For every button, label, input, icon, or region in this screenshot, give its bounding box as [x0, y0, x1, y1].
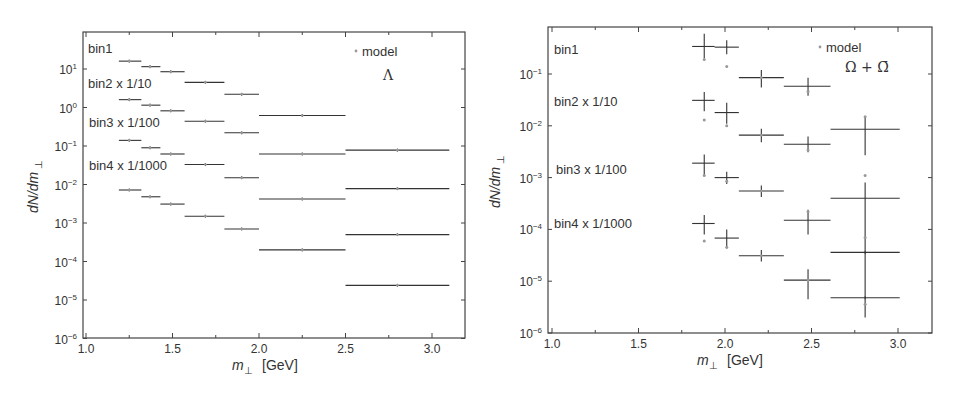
data-point: [259, 152, 346, 155]
data-point: [739, 186, 784, 197]
data-point: [141, 146, 160, 149]
x-tick-label: 3.0: [890, 337, 907, 351]
data-point: [141, 65, 160, 68]
model-marker-icon: [725, 180, 728, 183]
data-point: [346, 284, 450, 287]
x-axis-title-sub: ⊥: [709, 360, 718, 371]
y-axis-title-main: dN/dm: [25, 171, 41, 213]
data-point: [141, 104, 160, 107]
y-axis-title-main: dN/dm: [487, 166, 503, 208]
data-point: [739, 250, 784, 261]
data-point: [185, 120, 225, 123]
y-tick-label: 10−6: [55, 332, 78, 347]
species-label: Λ: [382, 67, 394, 83]
model-marker-icon: [169, 203, 172, 206]
data-point: [224, 227, 259, 230]
data-point: [784, 210, 831, 235]
y-tick-label: 100: [59, 101, 77, 116]
data-point: [160, 152, 184, 155]
y-axis-title: dN/dm ⊥: [487, 155, 506, 208]
model-marker-icon: [396, 284, 399, 287]
data-point: [224, 93, 259, 96]
data-point: [119, 98, 141, 101]
x-tick-label: 2.0: [717, 337, 734, 351]
y-tick-label: 10−3: [520, 171, 543, 186]
legend-model-marker-icon: [355, 50, 358, 53]
data-point: [784, 137, 831, 153]
y-tick-label: 10−6: [520, 326, 543, 341]
x-axis-title: m ⊥ [GeV]: [232, 357, 298, 376]
data-point: [259, 248, 346, 251]
data-point: [739, 129, 784, 143]
y-tick-label: 10−3: [55, 216, 78, 231]
model-marker-icon: [301, 114, 304, 117]
model-marker-icon: [864, 236, 867, 239]
model-marker-icon: [301, 198, 304, 201]
model-marker-icon: [240, 228, 243, 231]
data-point: [692, 154, 714, 177]
bin3-label: bin3 x 1/100: [556, 162, 627, 177]
x-axis-title-main: m: [232, 357, 244, 373]
y-tick-label: 101: [59, 62, 77, 77]
data-point: [259, 114, 346, 117]
legend-model-label: model: [362, 44, 398, 59]
model-marker-icon: [760, 134, 763, 137]
model-marker-icon: [725, 246, 728, 249]
y-tick-label: 10−5: [520, 274, 543, 289]
legend-model-label: model: [826, 40, 862, 55]
model-marker-icon: [204, 215, 207, 218]
model-marker-icon: [240, 93, 243, 96]
data-point: [224, 176, 259, 179]
x-tick-label: 1.0: [78, 342, 95, 356]
data-point: [784, 269, 831, 299]
omega-chart-panel: 10−110−210−310−410−510−6 1.01.52.02.53.0…: [480, 0, 956, 397]
data-point: [692, 34, 714, 61]
model-marker-icon: [725, 65, 728, 68]
data-point: [119, 139, 141, 142]
lambda-chart: 10110010−110−210−310−410−510−6 1.01.52.0…: [0, 0, 480, 397]
model-marker-icon: [864, 303, 867, 306]
model-marker-icon: [240, 176, 243, 179]
model-marker-icon: [703, 239, 706, 242]
data-points: [119, 60, 449, 287]
model-marker-icon: [204, 163, 207, 166]
data-point: [715, 40, 739, 68]
data-point: [119, 188, 141, 191]
data-point: [160, 70, 184, 73]
data-points: [692, 34, 900, 318]
model-marker-icon: [807, 279, 810, 282]
x-axis-title-sub: ⊥: [244, 365, 253, 376]
data-point: [715, 229, 739, 248]
data-point: [692, 92, 714, 121]
model-marker-icon: [204, 120, 207, 123]
model-marker-icon: [396, 187, 399, 190]
y-axis-ticks: 10110010−110−210−310−410−510−6: [55, 62, 465, 347]
data-point: [259, 198, 346, 201]
y-tick-label: 10−4: [55, 255, 78, 270]
data-point: [715, 172, 739, 184]
bin3-label: bin3 x 1/100: [89, 115, 160, 130]
bin2-label: bin2 x 1/10: [88, 76, 152, 91]
x-axis-title-main: m: [697, 352, 709, 368]
omega-chart: 10−110−210−310−410−510−6 1.01.52.02.53.0…: [480, 0, 956, 397]
model-marker-icon: [703, 174, 706, 177]
model-marker-icon: [169, 153, 172, 156]
legend-model-marker-icon: [819, 46, 822, 49]
model-marker-icon: [703, 118, 706, 121]
model-marker-icon: [301, 249, 304, 252]
x-axis-title-unit: [GeV]: [262, 357, 298, 373]
species-label: Ω + Ω̄: [845, 59, 889, 75]
x-axis-title: m ⊥ [GeV]: [697, 352, 763, 371]
data-point: [185, 215, 225, 218]
model-marker-icon: [703, 58, 706, 61]
y-axis-title-sub: ⊥: [33, 160, 44, 169]
model-marker-icon: [149, 104, 152, 107]
y-tick-label: 10−2: [520, 119, 543, 134]
y-axis-title: dN/dm ⊥: [25, 160, 44, 213]
bin4-label: bin4 x 1/1000: [89, 158, 167, 173]
data-point: [224, 131, 259, 134]
model-marker-icon: [807, 149, 810, 152]
x-tick-label: 2.0: [251, 342, 268, 356]
model-marker-icon: [864, 174, 867, 177]
model-marker-icon: [807, 210, 810, 213]
